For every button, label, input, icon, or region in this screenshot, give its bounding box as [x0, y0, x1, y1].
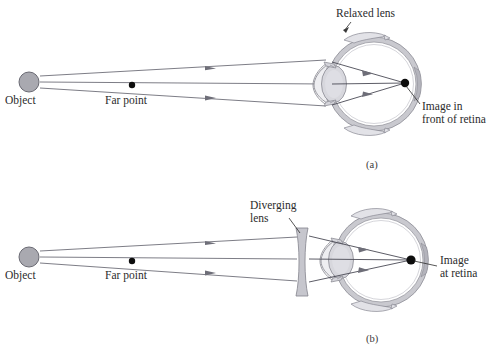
object-ball-a [19, 72, 39, 92]
ray-lower-a [40, 88, 326, 106]
far-point-dot-b [129, 258, 135, 264]
optics-figure: Object Far point Relaxed lens Image in f… [0, 0, 494, 351]
panel-b: Object Far point Diverging lens Image at… [5, 199, 477, 345]
diverging-lens-label-line1-b: Diverging [250, 199, 297, 212]
image-point-dot-b [406, 255, 415, 264]
diverging-lens-leader-b [289, 218, 300, 233]
image-point-dot-a [401, 79, 409, 87]
eye-front-structures-b [320, 238, 354, 282]
panel-tag-b: (b) [366, 333, 379, 345]
ray-arrowhead-lower-a [205, 96, 216, 101]
image-label-line1-b: Image [440, 254, 469, 267]
panel-a: Object Far point Relaxed lens Image in f… [5, 7, 486, 171]
panel-tag-a: (a) [366, 159, 378, 171]
image-label-line2-b: at retina [440, 267, 477, 279]
diverging-lens-label-line2-b: lens [250, 212, 269, 224]
far-point-dot-a [129, 82, 135, 88]
far-point-label-b: Far point [105, 269, 148, 282]
object-label-a: Object [5, 94, 36, 107]
ray-axis-a [40, 82, 326, 84]
far-point-label-a: Far point [105, 94, 148, 107]
ray-axis-b [40, 257, 297, 259]
ray-lower-b [40, 263, 297, 281]
object-ball-b [19, 247, 39, 267]
object-label-b: Object [5, 269, 36, 282]
relaxed-lens-label-a: Relaxed lens [336, 7, 396, 19]
ray-upper-a [40, 60, 326, 76]
image-label-line1-a: Image in [422, 100, 463, 113]
ray-upper-b [40, 237, 297, 251]
diverging-lens-b[interactable] [296, 228, 308, 296]
image-label-line2-a: front of retina [422, 113, 486, 125]
